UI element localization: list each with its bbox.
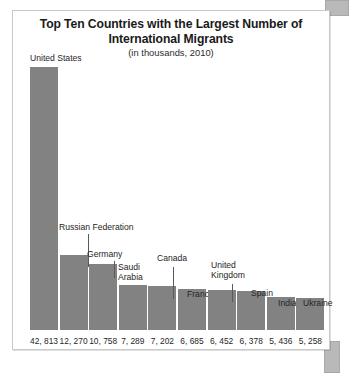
bar-label-india: India (278, 298, 297, 308)
bar-label-canada: Canada (157, 253, 187, 263)
bar-label-russian-federation: Russian Federation (59, 222, 134, 232)
bar-label-germany: Germany (87, 249, 122, 259)
value-label-france: 6, 685 (177, 336, 207, 346)
bar-united-states (30, 67, 58, 330)
bar-saudi-arabia (119, 285, 147, 330)
leader-line-united-kingdom (232, 284, 233, 302)
value-label-canada: 7, 202 (147, 336, 177, 346)
bar-germany (89, 264, 117, 330)
chart-figure: Top Ten Countries with the Largest Numbe… (12, 10, 330, 350)
bar-label-united-states: United States (30, 53, 82, 63)
value-label-russian-federation: 12, 270 (59, 336, 89, 346)
value-label-spain: 6, 378 (236, 336, 266, 346)
page-root: Top Ten Countries with the Largest Numbe… (0, 0, 354, 373)
leader-line-canada (173, 267, 174, 299)
value-label-united-kingdom: 6, 452 (207, 336, 237, 346)
value-label-india: 5, 436 (266, 336, 296, 346)
value-label-ukraine: 5, 258 (295, 336, 325, 346)
bar-label-ukraine: Ukraine (303, 298, 333, 308)
leader-line-germany (114, 261, 115, 278)
bar-label-united-kingdom: UnitedKingdom (211, 260, 245, 280)
chart-plot-area: United States42, 813Russian Federation12… (13, 11, 329, 349)
value-label-saudi-arabia: 7, 289 (118, 336, 148, 346)
bar-russian-federation (60, 255, 88, 330)
value-label-germany: 10, 758 (88, 336, 118, 346)
value-label-united-states: 42, 813 (29, 336, 59, 346)
bar-label-saudi-arabia: SaudiArabia (118, 262, 143, 282)
